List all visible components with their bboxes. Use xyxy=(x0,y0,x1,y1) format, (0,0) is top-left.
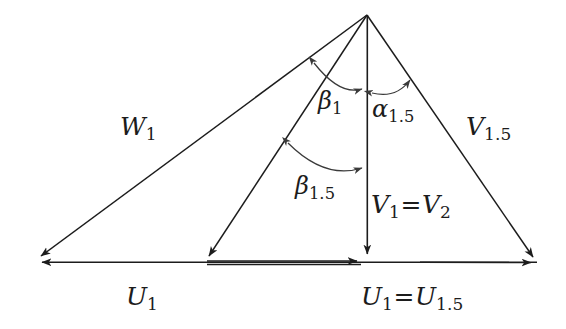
label-v1v2-sub2: 2 xyxy=(440,202,451,222)
label-beta15: β1.5 xyxy=(295,174,335,202)
label-v1v2-base: V xyxy=(371,190,389,219)
label-v1-equals-v2: V1=V2 xyxy=(371,192,451,221)
label-u1u15-sub2: 1.5 xyxy=(436,294,463,314)
vector-w15 xyxy=(209,15,367,256)
label-v15: V1.5 xyxy=(466,114,511,143)
label-beta15-sub: 1.5 xyxy=(309,184,335,203)
label-beta1-sub: 1 xyxy=(332,99,342,118)
angle-arc-alpha15 xyxy=(372,80,410,94)
label-u1u15-equals: = xyxy=(393,282,415,311)
vector-w1 xyxy=(41,15,367,256)
label-u1u15-base: U xyxy=(361,282,382,311)
label-beta1: β1 xyxy=(318,89,342,117)
label-w1-base: W xyxy=(120,112,146,141)
label-w1: W1 xyxy=(120,114,157,143)
label-alpha15-base: α xyxy=(372,95,388,123)
label-alpha15: α1.5 xyxy=(372,97,414,125)
angle-arc-beta15 xyxy=(288,143,362,171)
label-w1-sub: 1 xyxy=(146,124,157,144)
vector-diagram-canvas xyxy=(0,0,566,329)
label-u1-base: U xyxy=(126,282,147,311)
label-v1v2-equals: = xyxy=(400,190,422,219)
label-alpha15-sub: 1.5 xyxy=(388,107,414,126)
label-u1-equals-u15: U1=U1.5 xyxy=(361,284,463,313)
label-beta1-base: β xyxy=(318,87,332,115)
label-v1v2-base2: V xyxy=(422,190,440,219)
label-v15-base: V xyxy=(466,112,484,141)
label-v1v2-sub: 1 xyxy=(389,202,400,222)
label-beta15-base: β xyxy=(295,172,309,200)
label-u1u15-sub: 1 xyxy=(382,294,393,314)
label-u1-sub: 1 xyxy=(147,294,158,314)
vector-diagram-figure: W1 V1.5 β1 α1.5 β1.5 V1=V2 U1 U1=U1.5 xyxy=(0,0,566,329)
label-v15-sub: 1.5 xyxy=(484,124,511,144)
label-u1u15-base2: U xyxy=(415,282,436,311)
label-u1: U1 xyxy=(126,284,158,313)
